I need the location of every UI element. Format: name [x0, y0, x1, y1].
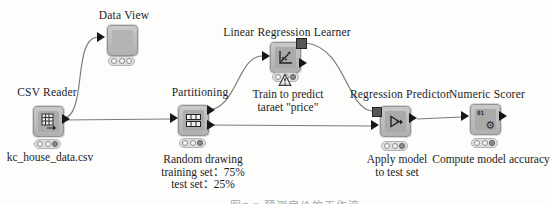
node-title-regression-predictor: Regression Predictor — [350, 88, 450, 100]
node-csv-reader[interactable] — [33, 106, 64, 137]
predictor-model-input-port[interactable] — [372, 107, 382, 117]
scorer-input-port[interactable] — [461, 111, 469, 121]
status-dot — [182, 140, 188, 146]
partitioning-icon — [183, 110, 204, 131]
status-dot — [399, 143, 405, 149]
status-dot — [190, 140, 196, 146]
partitioning-status-lights — [179, 138, 206, 148]
wire-predictor-to-scorer[interactable] — [417, 117, 462, 119]
predictor-data-input-port[interactable] — [371, 120, 379, 130]
annotation-line: training set：75% — [161, 166, 245, 179]
status-dot — [126, 58, 132, 64]
partitioning-input-port[interactable] — [170, 113, 178, 123]
annotation-line: Train to predict — [252, 88, 323, 101]
status-dot — [482, 140, 488, 146]
csv-reader-icon — [38, 111, 59, 132]
csv-reader-output-port[interactable] — [62, 114, 70, 124]
scorer-status-lights — [471, 138, 498, 148]
learner-output-port[interactable] — [299, 58, 307, 68]
learner-model-output-port[interactable] — [296, 38, 307, 49]
annotation-line: Apply model — [367, 153, 427, 166]
partitioning-output-port-top[interactable] — [207, 105, 215, 115]
node-annotation-partitioning: Random drawing training set：75% test set… — [161, 153, 245, 191]
warning-icon — [278, 73, 292, 87]
regression-predictor-icon — [385, 111, 406, 132]
predictor-output-port[interactable] — [409, 113, 417, 123]
learner-input-port[interactable] — [262, 51, 270, 61]
status-dot — [197, 140, 203, 146]
csv-reader-status-lights — [34, 139, 61, 149]
node-annotation-learner: Train to predict taraet "price" — [252, 88, 323, 113]
node-partitioning[interactable] — [178, 105, 209, 136]
node-title-numeric-scorer: Numeric Scorer — [449, 88, 525, 100]
wire-partitioning-to-predictor[interactable] — [208, 125, 371, 126]
data-view-status-lights — [108, 56, 135, 66]
annotation-line: taraet "price" — [252, 101, 323, 114]
status-dot — [384, 143, 390, 149]
cropped-caption: 图7-2 预测房价的工作流 — [230, 197, 359, 204]
data-view-input-port[interactable] — [97, 32, 105, 42]
node-numeric-scorer[interactable]: 01 ⚙ — [470, 104, 501, 135]
linear-regression-learner-icon — [275, 47, 296, 68]
data-view-icon — [112, 30, 133, 51]
status-dot — [37, 141, 43, 147]
node-data-view[interactable] — [107, 25, 138, 56]
wire-csv-to-partitioning[interactable] — [63, 119, 170, 120]
annotation-line: test set：25% — [161, 178, 245, 191]
annotation-line: Random drawing — [161, 153, 245, 166]
annotation-line: to test set — [367, 166, 427, 179]
node-annotation-predictor: Apply model to test set — [367, 153, 427, 178]
node-title-data-view: Data View — [99, 9, 149, 21]
node-annotation-csv-reader: kc_house_data.csv — [7, 151, 94, 164]
knime-workflow-canvas: CSV Reader kc_house_data.csv Data View P… — [0, 0, 550, 204]
node-title-csv-reader: CSV Reader — [17, 86, 77, 98]
node-title-linear-regression-learner: Linear Regression Learner — [223, 26, 351, 38]
status-dot — [111, 58, 117, 64]
wire-csv-to-dataview[interactable] — [62, 37, 97, 119]
status-dot — [489, 140, 495, 146]
node-regression-predictor[interactable] — [380, 106, 411, 137]
gear-icon: ⚙ — [485, 120, 495, 131]
node-annotation-scorer: Compute model accuracy — [432, 153, 550, 166]
status-dot — [474, 140, 480, 146]
numeric-scorer-icon-text: 01 — [477, 110, 484, 116]
status-dot — [45, 141, 51, 147]
status-dot — [52, 141, 58, 147]
node-title-partitioning: Partitioning — [172, 86, 229, 98]
status-dot — [119, 58, 125, 64]
numeric-scorer-icon: 01 ⚙ — [475, 109, 496, 130]
status-dot — [392, 143, 398, 149]
partitioning-output-port-bottom[interactable] — [207, 120, 215, 130]
predictor-status-lights — [381, 141, 408, 151]
scorer-output-port[interactable] — [499, 111, 507, 121]
